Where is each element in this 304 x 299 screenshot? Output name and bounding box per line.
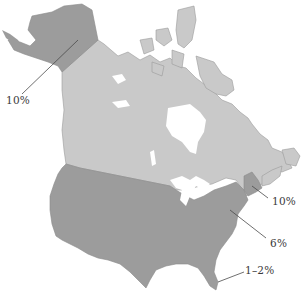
region-arctic-island-2 bbox=[156, 28, 172, 46]
region-arctic-islands bbox=[176, 6, 196, 48]
label-florida: 1–2% bbox=[245, 264, 274, 276]
leader-line-florida bbox=[218, 272, 244, 282]
label-alaska: 10% bbox=[6, 94, 30, 106]
north-america-map: 10% 10% 6% 1–2% bbox=[0, 0, 304, 299]
label-eastern-us: 6% bbox=[270, 237, 287, 249]
map-graphic bbox=[0, 0, 304, 299]
region-arctic-island-3 bbox=[140, 38, 154, 54]
region-contiguous-us bbox=[50, 164, 248, 290]
label-new-england: 10% bbox=[272, 195, 296, 207]
